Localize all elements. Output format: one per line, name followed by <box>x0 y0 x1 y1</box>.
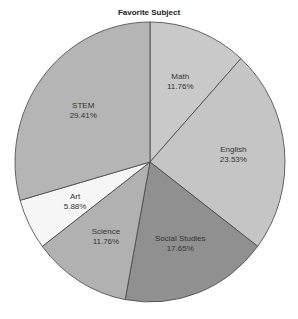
slice-percent: 23.53% <box>220 155 247 164</box>
slice-percent: 17.65% <box>167 244 194 253</box>
slice-percent: 11.76% <box>167 82 194 91</box>
slice-percent: 29.41% <box>70 111 97 120</box>
slice-label: English <box>220 145 246 154</box>
slice-percent: 5.88% <box>64 202 87 211</box>
slice-label: Science <box>92 227 121 236</box>
slice-label: STEM <box>72 101 95 110</box>
slice-percent: 11.76% <box>93 237 120 246</box>
pie-chart: Math11.76%English23.53%Social Studies17.… <box>0 0 298 319</box>
slice-label: Math <box>171 72 189 81</box>
slice-label: Art <box>70 192 81 201</box>
slice-label: Social Studies <box>155 234 206 243</box>
